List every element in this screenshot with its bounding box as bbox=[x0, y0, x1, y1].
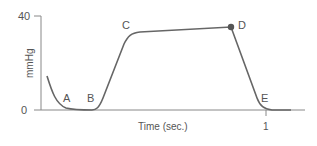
point-label-c: C bbox=[122, 19, 130, 31]
x-axis-title: Time (sec.) bbox=[138, 121, 188, 132]
point-label-a: A bbox=[63, 92, 71, 104]
pressure-curve bbox=[47, 27, 291, 110]
pressure-chart: 40 0 mmHg 1 Time (sec.) A B C D E bbox=[0, 0, 317, 146]
point-label-b: B bbox=[87, 92, 94, 104]
point-label-e: E bbox=[261, 92, 268, 104]
point-d-marker bbox=[228, 24, 234, 30]
y-axis-title: mmHg bbox=[24, 49, 35, 78]
point-label-d: D bbox=[238, 19, 246, 31]
x-tick-label-1: 1 bbox=[263, 121, 269, 132]
y-tick-label-0: 0 bbox=[21, 104, 27, 116]
y-tick-label-40: 40 bbox=[18, 10, 30, 22]
